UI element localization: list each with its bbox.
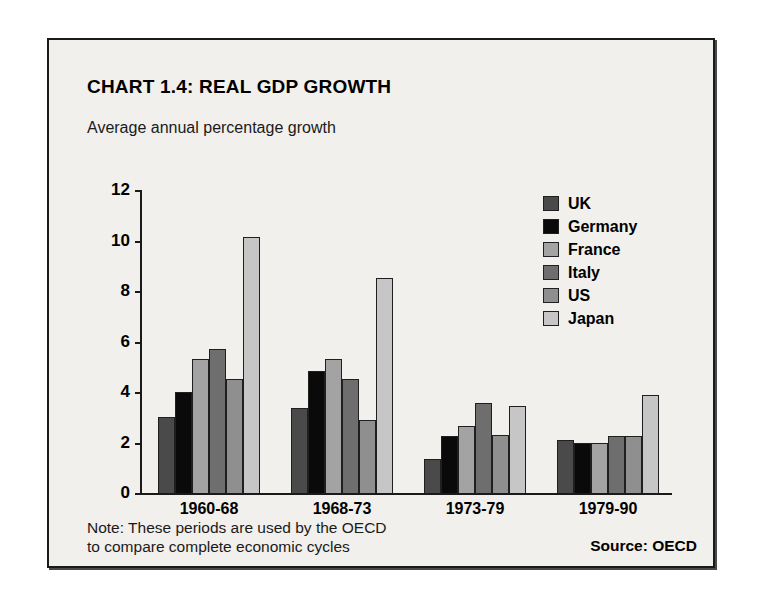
x-axis-group-label: 1973-79	[402, 500, 548, 518]
legend-label: Italy	[568, 264, 600, 282]
x-axis-group-label: 1979-90	[535, 500, 681, 518]
legend-item-us: US	[543, 284, 637, 307]
bar	[475, 403, 492, 493]
legend-swatch-icon	[543, 288, 559, 303]
chart-note: Note: These periods are used by the OECD…	[87, 518, 387, 556]
legend-item-france: France	[543, 238, 637, 261]
bar	[591, 443, 608, 494]
y-axis-tick-label: 6	[98, 332, 138, 352]
x-axis-group-label: 1968-73	[269, 500, 415, 518]
legend-item-japan: Japan	[543, 307, 637, 330]
y-axis-tick-mark	[135, 190, 140, 192]
chart-note-line-2: to compare complete economic cycles	[87, 537, 387, 556]
legend-label: Germany	[568, 218, 637, 236]
y-axis-tick-label: 8	[98, 281, 138, 301]
y-axis-tick-mark	[135, 443, 140, 445]
y-axis-tick-mark	[135, 392, 140, 394]
bar	[492, 435, 509, 493]
bar	[226, 379, 243, 493]
y-axis-tick-mark	[135, 241, 140, 243]
bar	[625, 436, 642, 493]
legend-item-italy: Italy	[543, 261, 637, 284]
chart-title: CHART 1.4: REAL GDP GROWTH	[87, 76, 391, 98]
legend-label: US	[568, 287, 590, 305]
legend-swatch-icon	[543, 311, 559, 326]
bar	[243, 237, 260, 493]
bar	[608, 436, 625, 493]
y-axis-tick-label: 0	[98, 483, 138, 503]
x-axis-group-label: 1960-68	[136, 500, 282, 518]
bar-group	[158, 190, 260, 493]
bar-group	[291, 190, 393, 493]
chart-subtitle: Average annual percentage growth	[87, 119, 336, 137]
bar	[509, 406, 526, 493]
bar	[308, 371, 325, 493]
y-axis-tick-label: 10	[98, 231, 138, 251]
bar	[574, 443, 591, 494]
legend-item-germany: Germany	[543, 215, 637, 238]
legend: UKGermanyFranceItalyUSJapan	[543, 192, 637, 330]
legend-label: France	[568, 241, 620, 259]
bar	[192, 359, 209, 493]
legend-swatch-icon	[543, 265, 559, 280]
bar	[158, 417, 175, 493]
bar	[557, 440, 574, 493]
y-axis-tick-mark	[135, 342, 140, 344]
bar	[291, 408, 308, 493]
bar	[642, 395, 659, 493]
y-axis-tick-label: 4	[98, 382, 138, 402]
bar	[458, 426, 475, 493]
bar	[209, 349, 226, 493]
y-axis-tick-label: 2	[98, 433, 138, 453]
bar	[424, 459, 441, 493]
legend-label: UK	[568, 195, 591, 213]
legend-label: Japan	[568, 310, 614, 328]
legend-swatch-icon	[543, 219, 559, 234]
chart-panel: CHART 1.4: REAL GDP GROWTH Average annua…	[47, 38, 715, 568]
legend-swatch-icon	[543, 196, 559, 211]
chart-source: Source: OECD	[590, 537, 697, 555]
bar	[359, 420, 376, 493]
x-axis-line	[140, 493, 672, 495]
legend-swatch-icon	[543, 242, 559, 257]
y-axis-tick-mark	[135, 291, 140, 293]
chart-note-line-1: Note: These periods are used by the OECD	[87, 518, 387, 537]
bar	[441, 436, 458, 493]
legend-item-uk: UK	[543, 192, 637, 215]
y-axis-tick-mark	[135, 493, 140, 495]
y-axis-line	[140, 190, 142, 495]
y-axis-tick-label: 12	[98, 180, 138, 200]
bar	[376, 278, 393, 493]
bar	[175, 392, 192, 493]
bar	[342, 379, 359, 493]
bar	[325, 359, 342, 493]
bar-group	[424, 190, 526, 493]
